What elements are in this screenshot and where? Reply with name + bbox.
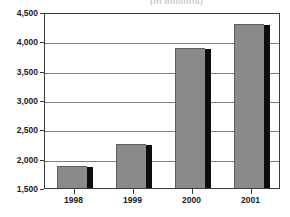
bar-2001 — [234, 24, 264, 188]
x-axis-category-label: 2000 — [182, 195, 201, 205]
bar-shadow-2000 — [205, 49, 211, 188]
bar-2000 — [175, 48, 205, 188]
y-axis-tick-mark — [40, 130, 44, 131]
x-axis-tick-mark — [133, 189, 134, 194]
plot-area — [44, 13, 280, 189]
y-axis-labels: 4,5004,0003,5003,0002,5002,0001,500 — [0, 0, 38, 217]
y-axis-tick-label: 4,500 — [0, 9, 38, 18]
y-axis-tick-mark — [40, 160, 44, 161]
bar-1998 — [57, 166, 87, 188]
y-axis-tick-mark — [40, 72, 44, 73]
x-axis-category-label: 1999 — [123, 195, 142, 205]
y-axis-tick-label: 2,000 — [0, 155, 38, 164]
y-axis-tick-label: 4,000 — [0, 38, 38, 47]
x-axis-tick-mark — [192, 189, 193, 194]
x-axis-category-label: 2001 — [241, 195, 260, 205]
x-axis-tick-mark — [74, 189, 75, 194]
bar-1999 — [116, 144, 146, 188]
y-axis-tick-mark — [40, 42, 44, 43]
x-axis-category-label: 1998 — [64, 195, 83, 205]
bar-shadow-2001 — [264, 25, 270, 188]
y-axis-tick-label: 2,500 — [0, 126, 38, 135]
clipped-title-text: (in millions) — [150, 0, 290, 5]
y-axis-tick-mark — [40, 101, 44, 102]
y-axis-tick-label: 3,000 — [0, 97, 38, 106]
y-axis-tick-label: 1,500 — [0, 185, 38, 194]
y-axis-tick-mark — [40, 13, 44, 14]
x-axis-tick-mark — [251, 189, 252, 194]
bar-chart: (in millions) 4,5004,0003,5003,0002,5002… — [0, 0, 290, 217]
bar-shadow-1999 — [146, 145, 152, 188]
bar-shadow-1998 — [87, 167, 93, 188]
y-axis-tick-label: 3,500 — [0, 67, 38, 76]
y-axis-tick-mark — [40, 189, 44, 190]
